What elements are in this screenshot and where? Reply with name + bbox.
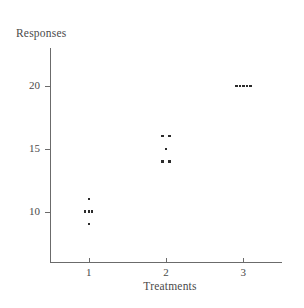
data-point [91,210,93,212]
data-point [88,210,90,212]
data-point [239,85,241,87]
y-axis-title: Responses [16,27,66,39]
x-axis-title-text: Treatments [143,280,196,292]
data-point [165,148,167,150]
x-tick-label: 1 [79,266,99,278]
x-tick-mark [243,258,244,263]
data-point [168,135,170,137]
y-tick-mark [45,149,51,150]
data-point [235,85,237,87]
data-point [84,210,86,212]
data-point [88,223,90,225]
y-tick-label: 15 [0,142,40,154]
x-tick-mark [166,258,167,263]
data-point [242,85,244,87]
data-point [246,85,248,87]
y-tick-label: 20 [0,79,40,91]
data-point [249,85,251,87]
data-point [168,160,170,162]
y-tick-mark [45,86,51,87]
x-tick-label: 3 [233,266,253,278]
scatter-plot: Responses 101520 123 Treatments [0,0,304,308]
y-tick-mark [45,212,51,213]
data-point [161,160,163,162]
y-tick-label: 10 [0,205,40,217]
y-axis-line [50,48,51,263]
x-axis-title: Treatments [0,280,304,292]
data-point [88,198,90,200]
x-tick-mark [89,258,90,263]
data-point [161,135,163,137]
x-tick-label: 2 [156,266,176,278]
